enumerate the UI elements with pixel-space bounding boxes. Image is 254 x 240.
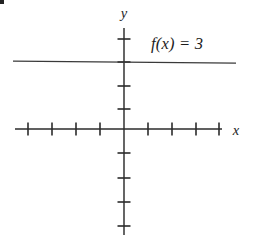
y-axis-group: y — [118, 5, 131, 235]
coordinate-plane-graphic: x y — [0, 0, 254, 240]
function-equation-label: f(x) = 3 — [151, 36, 203, 53]
x-axis-group: x — [15, 122, 240, 138]
x-axis-label: x — [232, 122, 240, 138]
figure-canvas: x y f(x) = 3 — [0, 0, 254, 240]
y-axis-label: y — [119, 5, 128, 21]
